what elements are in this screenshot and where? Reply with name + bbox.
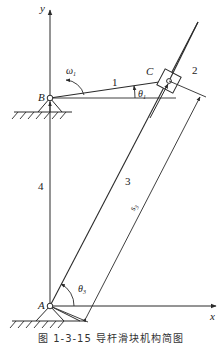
point-b-label: B <box>38 91 45 103</box>
point-c-label: C <box>146 65 154 77</box>
link-3-label: 3 <box>125 175 131 187</box>
theta3-label: θ3 <box>78 283 86 295</box>
theta1-label: θ1 <box>138 88 146 100</box>
link-2-label: 2 <box>192 64 198 76</box>
pivot-a <box>47 303 53 309</box>
s3-label: s3 <box>127 202 140 213</box>
link-1-label: 1 <box>112 76 118 88</box>
dimension-s3: s3 <box>50 81 206 322</box>
figure-caption: 图 1-3-15 导杆滑块机构简图 <box>0 330 222 345</box>
ground-support-a <box>10 306 84 328</box>
link-1-crank: 1 <box>50 76 166 98</box>
link-4-label: 4 <box>38 180 44 192</box>
omega1-label: ω1 <box>66 65 76 77</box>
y-axis: y <box>39 2 50 306</box>
y-axis-label: y <box>39 2 45 14</box>
x-axis-label: x <box>209 310 215 322</box>
x-axis: x <box>50 306 216 322</box>
pivot-b <box>47 95 53 101</box>
point-a-label: A <box>37 299 45 311</box>
